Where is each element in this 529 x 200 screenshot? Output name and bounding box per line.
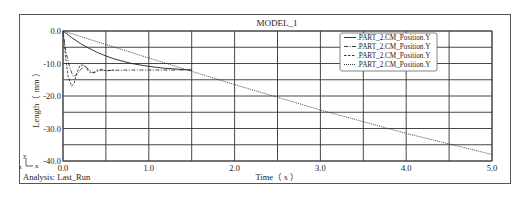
series-line — [63, 31, 192, 77]
y-axis-label: Length（ mm ） — [31, 68, 41, 128]
legend-entry: .PART_2.CM_Position.Y — [357, 34, 431, 42]
y-tick-label: -10.0 — [43, 59, 61, 69]
legend-entry: .PART_2.CM_Position.Y — [357, 61, 431, 69]
y-tick-label: 0.0 — [50, 26, 61, 36]
analysis-label: Analysis: Last_Run — [23, 172, 91, 182]
x-tick-label: 1.0 — [143, 163, 154, 173]
line-chart: MODEL_1 0.0-10.0-20.0-30.0-40.0 0.01.02.… — [0, 0, 529, 200]
legend-entry: .PART_2.CM_Position.Y — [357, 52, 431, 60]
x-tick-label: 4.0 — [401, 163, 412, 173]
x-tick-label: 2.0 — [229, 163, 240, 173]
x-axis-label: Time（ s ） — [255, 172, 298, 182]
svg-text:z: z — [19, 164, 22, 170]
legend-entry: .PART_2.CM_Position.Y — [357, 43, 431, 51]
y-tick-label: -30.0 — [43, 124, 61, 134]
y-tick-labels: 0.0-10.0-20.0-30.0-40.0 — [43, 26, 61, 166]
legend: .PART_2.CM_Position.Y.PART_2.CM_Position… — [340, 33, 437, 71]
svg-text:y: y — [23, 152, 27, 160]
svg-text:x: x — [35, 162, 39, 170]
x-tick-label: 5.0 — [487, 163, 498, 173]
x-tick-label: 3.0 — [315, 163, 326, 173]
chart-title: MODEL_1 — [257, 18, 298, 28]
axis-triad-icon: y x z — [19, 152, 39, 170]
series-line — [63, 31, 115, 86]
y-tick-label: -20.0 — [43, 91, 61, 101]
